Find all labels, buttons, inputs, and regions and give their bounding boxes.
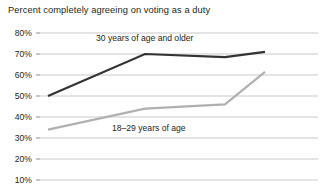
y-tick-text: 70% — [0, 50, 32, 59]
chart-svg — [0, 0, 332, 186]
y-tick-text: 20% — [0, 155, 32, 164]
y-tick-text: 30% — [0, 134, 32, 143]
series-line-18-29 — [48, 72, 265, 130]
chart-container: Percent completely agreeing on voting as… — [0, 0, 332, 186]
y-tick-text: 50% — [0, 92, 32, 101]
plot-area — [0, 0, 332, 186]
y-tick-text: 40% — [0, 113, 32, 122]
y-tick-text: 10% — [0, 176, 32, 185]
y-tick-text: 80% — [0, 29, 32, 38]
series-annotation-18-29: 18–29 years of age — [112, 123, 186, 133]
y-tick-text: 60% — [0, 71, 32, 80]
y-axis-ticks — [36, 33, 40, 180]
series-line-30-and-older — [48, 52, 265, 96]
series-annotation-30-and-older: 30 years of age and older — [96, 33, 193, 43]
